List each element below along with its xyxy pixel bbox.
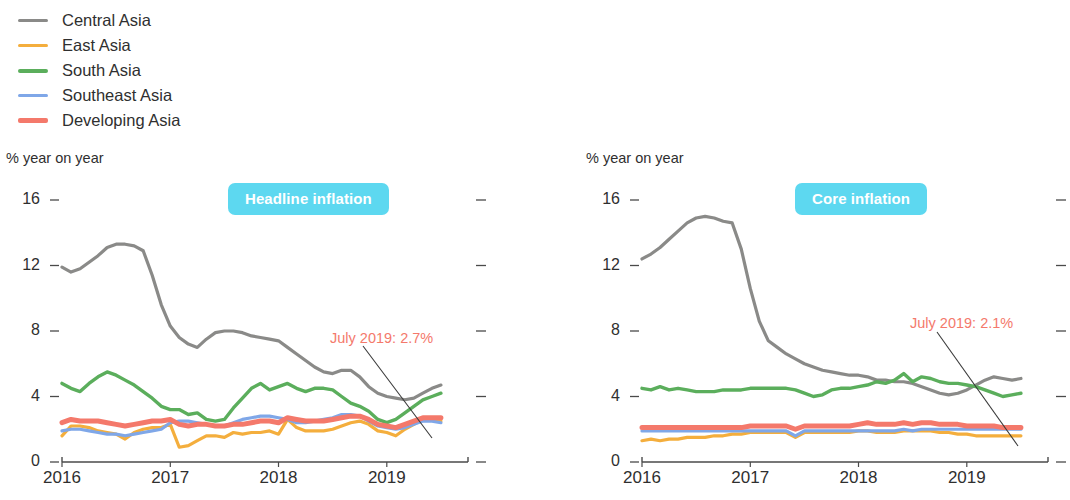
legend-item: South Asia [18, 58, 438, 83]
x-axis-tick-label: 2018 [824, 468, 894, 488]
y-axis-tick-label: 16 [14, 190, 40, 208]
chart-panel-core-inflation: % year on year Core inflation July 2019:… [580, 150, 1070, 500]
legend-color-swatch [18, 69, 48, 73]
legend-item: Central Asia [18, 8, 438, 33]
x-axis-tick-label: 2018 [244, 468, 314, 488]
chart-legend: Central AsiaEast AsiaSouth AsiaSoutheast… [18, 8, 438, 133]
y-axis-tick-label: 4 [594, 387, 620, 405]
legend-item-label: Central Asia [62, 11, 151, 30]
legend-color-swatch [18, 94, 48, 98]
x-axis-tick-label: 2017 [715, 468, 785, 488]
legend-item: East Asia [18, 33, 438, 58]
chart-panel-headline-inflation: % year on year Headline inflation July 2… [0, 150, 500, 500]
series-line-central-asia [642, 216, 1021, 394]
plot-area-headline [0, 150, 500, 500]
y-axis-tick-label: 8 [594, 321, 620, 339]
legend-color-swatch [18, 19, 48, 23]
annotation-core-july-2019: July 2019: 2.1% [910, 315, 1013, 331]
legend-color-swatch [18, 44, 48, 48]
y-axis-tick-label: 12 [14, 256, 40, 274]
x-axis-tick-label: 2019 [932, 468, 1002, 488]
x-axis-tick-label: 2017 [135, 468, 205, 488]
legend-item-label: East Asia [62, 36, 131, 55]
legend-item-label: Developing Asia [62, 111, 180, 130]
series-line-south-asia [62, 372, 441, 423]
y-axis-tick-label: 12 [594, 256, 620, 274]
y-axis-tick-label: 16 [594, 190, 620, 208]
legend-item-label: South Asia [62, 61, 141, 80]
legend-item: Southeast Asia [18, 83, 438, 108]
x-axis-tick-label: 2016 [607, 468, 677, 488]
plot-svg [0, 150, 500, 500]
y-axis-tick-label: 4 [14, 387, 40, 405]
legend-color-swatch [18, 118, 48, 124]
annotation-headline-july-2019: July 2019: 2.7% [330, 330, 433, 346]
y-axis-tick-label: 8 [14, 321, 40, 339]
x-axis-tick-label: 2019 [352, 468, 422, 488]
legend-item-label: Southeast Asia [62, 86, 172, 105]
series-line-south-asia [642, 374, 1021, 397]
x-axis-tick-label: 2016 [27, 468, 97, 488]
legend-item: Developing Asia [18, 108, 438, 133]
